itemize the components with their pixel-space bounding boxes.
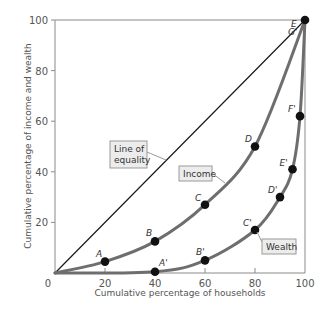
y-axis-title: Cumulative percentage of income and weal…	[23, 43, 33, 249]
point-label: D'	[268, 185, 277, 195]
x-axis-title: Cumulative percentage of households	[94, 288, 265, 298]
series-group	[55, 20, 305, 273]
data-point	[288, 165, 297, 174]
lorenz-curve-chart: 02040608010020406080100 ABCDEA'B'C'D'E'F…	[0, 0, 328, 321]
line-of-equality-annotation: Line ofequality	[110, 141, 166, 168]
data-point	[301, 16, 310, 25]
svg-text:Line of: Line of	[114, 144, 145, 154]
y-tick-label: 100	[29, 15, 48, 26]
point-label: E'	[280, 158, 288, 168]
x-tick-label: 0	[45, 278, 51, 289]
point-label: A'	[158, 258, 168, 268]
data-point	[251, 142, 260, 151]
wealth-annotation: Wealth	[257, 232, 297, 254]
y-tick-label: 60	[35, 116, 48, 127]
point-label: C'	[243, 218, 252, 228]
y-tick-label: 20	[35, 217, 48, 228]
line-of-equality-curve	[55, 20, 305, 273]
y-tick-label: 40	[35, 167, 48, 178]
point-label: C	[195, 193, 202, 203]
svg-text:Income: Income	[183, 169, 217, 179]
point-label: D	[245, 134, 252, 144]
data-point	[201, 200, 210, 209]
data-point	[296, 112, 305, 121]
point-label: G'	[288, 27, 297, 37]
point-label: A	[95, 249, 102, 259]
income-annotation: Income	[179, 166, 225, 183]
data-point	[151, 267, 160, 276]
svg-text:equality: equality	[114, 155, 151, 165]
point-label: F'	[288, 104, 296, 114]
point-label: B'	[196, 247, 205, 257]
x-tick-label: 100	[295, 278, 314, 289]
annotation-boxes: Line ofequalityIncomeWealth	[110, 141, 297, 254]
point-label: B	[146, 228, 152, 238]
y-tick-label: 80	[35, 66, 48, 77]
svg-text:Wealth: Wealth	[266, 242, 297, 252]
